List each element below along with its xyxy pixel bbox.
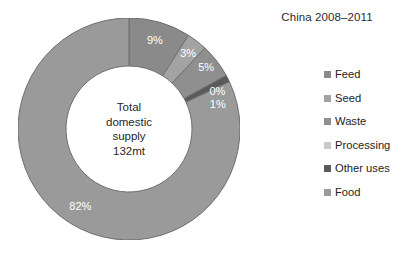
legend-item-label: Feed xyxy=(335,68,361,81)
legend-item-label: Food xyxy=(335,186,361,199)
chart-figure: China 2008–2011 Total domestic supply 13… xyxy=(0,0,411,253)
donut-svg xyxy=(18,18,240,240)
donut-chart xyxy=(18,18,240,240)
legend-swatch-icon xyxy=(324,189,331,196)
legend-item-seed[interactable]: Seed xyxy=(324,88,411,109)
legend-item-label: Seed xyxy=(335,92,361,105)
legend-swatch-icon xyxy=(324,118,331,125)
donut-slices xyxy=(18,18,240,240)
legend-item-label: Waste xyxy=(335,115,366,128)
legend-swatch-icon xyxy=(324,71,331,78)
legend-item-food[interactable]: Food xyxy=(324,182,411,203)
legend-swatch-icon xyxy=(324,95,331,102)
legend-swatch-icon xyxy=(324,165,331,172)
legend-item-waste[interactable]: Waste xyxy=(324,111,411,132)
legend-item-processing[interactable]: Processing xyxy=(324,135,411,156)
legend-swatch-icon xyxy=(324,142,331,149)
legend-item-label: Processing xyxy=(335,139,390,152)
legend-item-label: Other uses xyxy=(335,162,390,175)
legend-item-feed[interactable]: Feed xyxy=(324,64,411,85)
legend-item-other-uses[interactable]: Other uses xyxy=(324,158,411,179)
chart-title: China 2008–2011 xyxy=(252,10,402,24)
chart-legend: FeedSeedWasteProcessingOther usesFood xyxy=(324,64,411,206)
